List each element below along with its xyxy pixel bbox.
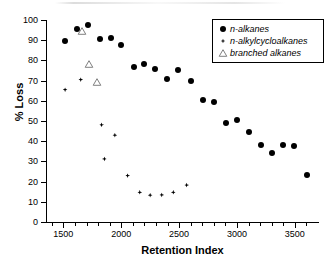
- data-point: [304, 172, 310, 178]
- x-tick-2900: [225, 223, 226, 226]
- data-point: [92, 78, 101, 86]
- data-point: [246, 129, 252, 135]
- legend-item-n-alkanes: n-alkanes: [216, 23, 319, 35]
- data-point: [200, 97, 206, 103]
- x-tick-label-2500: 2500: [159, 230, 199, 239]
- x-tick-1800: [98, 223, 99, 226]
- data-point: [125, 173, 130, 178]
- title-smudge: [55, 2, 285, 4]
- y-tick-label-10: 10: [0, 198, 38, 207]
- x-tick-2300: [156, 223, 157, 226]
- data-point: [137, 190, 142, 195]
- data-point: [108, 35, 114, 41]
- legend-item-branched-alkanes: branched alkanes: [216, 47, 319, 59]
- legend-label: n-alkanes: [230, 24, 269, 34]
- x-axis-label: Retention Index: [46, 244, 319, 256]
- data-point: [171, 190, 176, 195]
- data-point: [78, 27, 87, 35]
- legend-label: n-alkylcycloalkanes: [230, 36, 308, 46]
- x-tick-2700: [202, 223, 203, 226]
- data-point: [223, 120, 229, 126]
- y-tick-label-30: 30: [0, 157, 38, 166]
- x-tick-label-3500: 3500: [275, 230, 315, 239]
- x-tick-3000: [237, 223, 238, 228]
- x-tick-label-3000: 3000: [217, 230, 257, 239]
- legend-label: branched alkanes: [230, 48, 301, 58]
- y-tick-label-100: 100: [0, 16, 38, 25]
- data-point: [148, 193, 153, 198]
- y-tick-label-0: 0: [0, 218, 38, 227]
- legend-marker-open-triangle-icon: [216, 47, 230, 59]
- data-point: [234, 117, 240, 123]
- x-tick-1400: [52, 223, 53, 226]
- data-point: [291, 143, 297, 149]
- y-tick-0: [41, 222, 46, 223]
- x-tick-2200: [144, 223, 145, 226]
- x-tick-2000: [121, 223, 122, 228]
- x-tick-3500: [295, 223, 296, 228]
- y-tick-label-20: 20: [0, 178, 38, 187]
- data-point: [118, 42, 124, 48]
- x-tick-label-2000: 2000: [101, 230, 141, 239]
- y-tick-label-90: 90: [0, 36, 38, 45]
- x-tick-2100: [133, 223, 134, 226]
- x-tick-label-1500: 1500: [43, 230, 83, 239]
- x-tick-1900: [110, 223, 111, 226]
- x-tick-3400: [283, 223, 284, 226]
- x-tick-2500: [179, 223, 180, 228]
- x-tick-1500: [63, 223, 64, 228]
- data-point: [141, 61, 147, 67]
- data-point: [164, 76, 170, 82]
- x-tick-3100: [249, 223, 250, 226]
- y-axis-label: % Loss: [13, 57, 25, 147]
- x-tick-1600: [75, 223, 76, 226]
- data-point: [112, 133, 117, 138]
- legend-marker-filled-diamond-icon: [216, 35, 230, 47]
- data-point: [85, 60, 94, 68]
- data-point: [102, 156, 107, 161]
- legend-item-n-alkylcycloalkanes: n-alkylcycloalkanes: [216, 35, 319, 47]
- x-tick-3200: [260, 223, 261, 226]
- data-point: [280, 142, 286, 148]
- scatter-chart-figure: 0102030405060708090100 15002000250030003…: [0, 0, 332, 264]
- data-point: [131, 64, 137, 70]
- data-point: [99, 122, 104, 127]
- x-tick-2800: [214, 223, 215, 226]
- data-point: [211, 99, 217, 105]
- data-point: [258, 142, 264, 148]
- x-tick-2600: [191, 223, 192, 226]
- data-point: [97, 36, 103, 42]
- data-point: [188, 78, 194, 84]
- data-point: [62, 38, 68, 44]
- cropped-title-remnant: [55, 0, 285, 6]
- data-point: [269, 150, 275, 156]
- x-tick-3300: [272, 223, 273, 226]
- chart-legend: n-alkanesn-alkylcycloalkanesbranched alk…: [212, 19, 324, 63]
- x-tick-2400: [168, 223, 169, 226]
- data-point: [63, 87, 68, 92]
- data-point: [184, 183, 189, 188]
- data-point: [175, 67, 181, 73]
- data-point: [78, 77, 83, 82]
- legend-marker-filled-circle-icon: [216, 23, 230, 35]
- x-tick-1700: [87, 223, 88, 226]
- x-tick-3600: [306, 223, 307, 226]
- data-point: [152, 66, 158, 72]
- data-point: [159, 192, 164, 197]
